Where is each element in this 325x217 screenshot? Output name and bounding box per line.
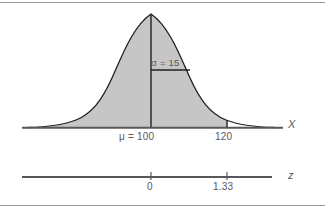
shaded-area-under-curve xyxy=(28,14,227,128)
plot-canvas xyxy=(0,0,325,217)
sigma-annotation-label: σ = 15 xyxy=(151,57,179,68)
mean-tick-label: μ = 100 xyxy=(119,131,154,142)
x-tick-label-120: 120 xyxy=(215,131,232,142)
z-tick-label-133: 1.33 xyxy=(213,181,233,192)
z-tick-label-zero: 0 xyxy=(147,181,153,192)
z-axis-name-label: z xyxy=(288,170,294,181)
x-axis-name-label: X xyxy=(288,119,296,130)
normal-distribution-figure: σ = 15 μ = 100 120 X 0 1.33 z xyxy=(0,0,325,217)
